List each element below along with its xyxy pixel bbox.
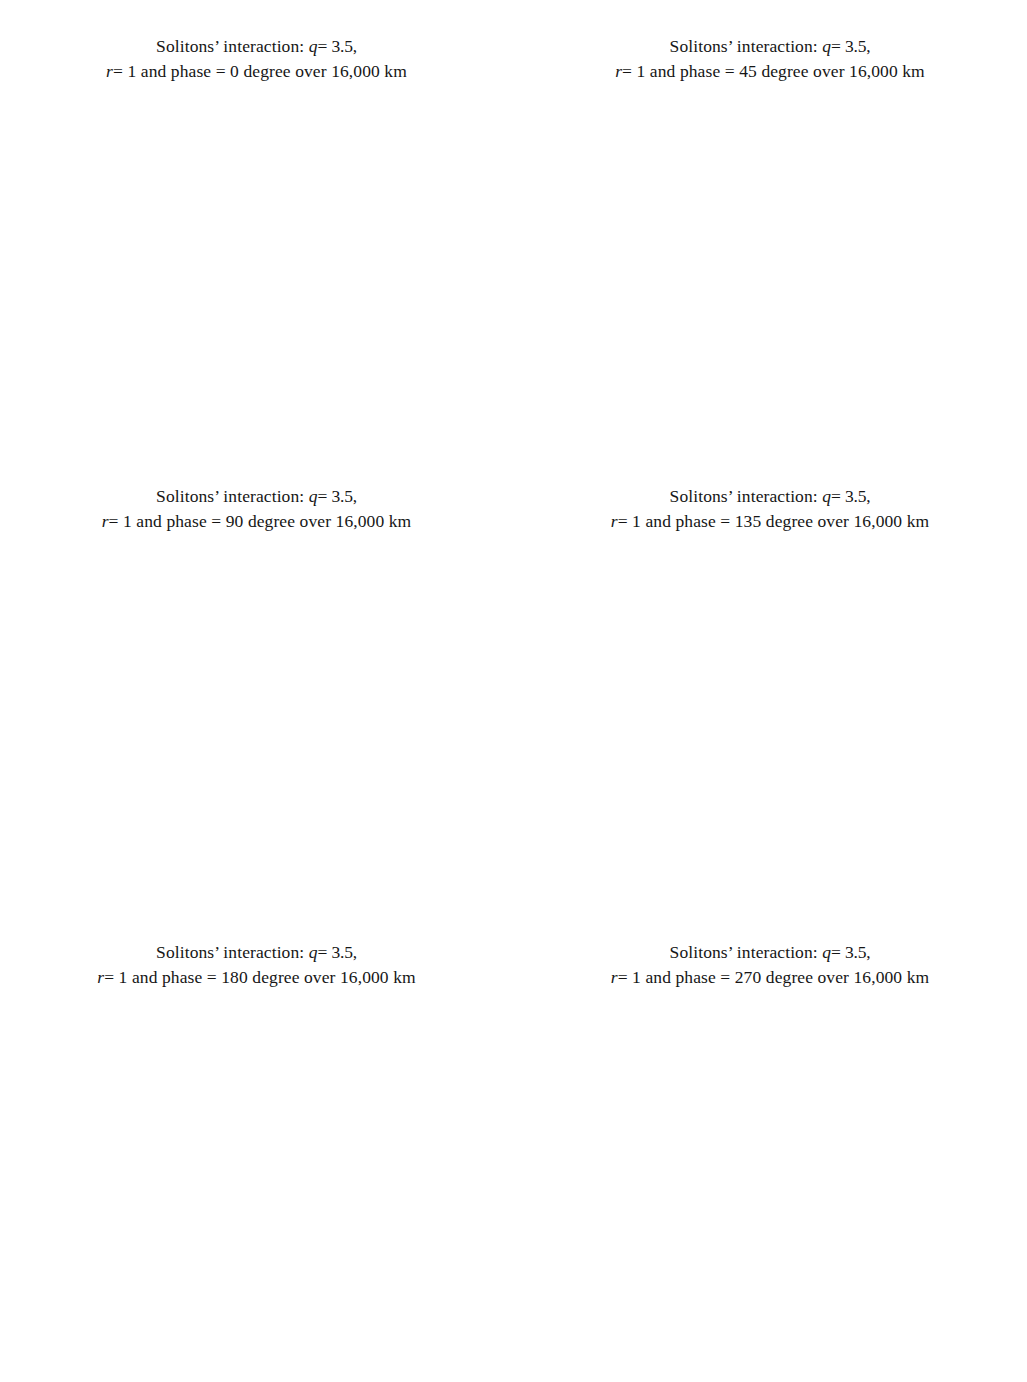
panel-d: Solitons’ interaction: q= 3.5, r= 1 and … [513,460,1027,920]
panel-e-plot [0,920,513,1382]
panel-b: Solitons’ interaction: q= 3.5, r= 1 and … [513,0,1027,460]
panel-c: Solitons’ interaction: q= 3.5, r= 1 and … [0,460,513,920]
panel-f: Solitons’ interaction: q= 3.5, r= 1 and … [513,920,1027,1382]
figure-root: Solitons’ interaction: q= 3.5, r= 1 and … [0,0,1027,1382]
panel-e: Solitons’ interaction: q= 3.5, r= 1 and … [0,920,513,1382]
panel-a-plot [0,0,513,460]
panel-c-plot [0,460,513,920]
panel-f-plot [513,920,1027,1382]
panel-grid: Solitons’ interaction: q= 3.5, r= 1 and … [0,0,1027,1382]
panel-a: Solitons’ interaction: q= 3.5, r= 1 and … [0,0,513,460]
panel-d-plot [513,460,1027,920]
panel-b-plot [513,0,1027,460]
